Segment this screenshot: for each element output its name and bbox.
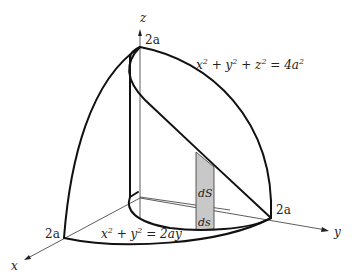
y-axis-label: y xyxy=(333,225,341,239)
dS-label: dS xyxy=(198,187,213,200)
x-axis-label: x xyxy=(11,259,18,273)
y-arrow-icon xyxy=(321,227,329,232)
z-axis-label: z xyxy=(139,11,147,25)
y-axis xyxy=(140,198,326,230)
y-intercept-label: 2a xyxy=(276,203,291,217)
x-intercept-label: 2a xyxy=(45,227,60,241)
diagram-canvas: z x y 2a 2a 2a x2 + y2 + z2 = 4a2 x2 + y… xyxy=(0,0,355,277)
ds-label: ds xyxy=(198,216,211,229)
x-arrow-icon xyxy=(24,255,31,260)
sphere-equation: x2 + y2 + z2 = 4a2 xyxy=(196,57,304,72)
z-intercept-label: 2a xyxy=(145,33,160,47)
sphere-xz-boundary xyxy=(64,47,140,238)
cylinder-base-corner xyxy=(130,192,138,197)
z-arrow-icon xyxy=(138,29,142,36)
base-line-back xyxy=(140,197,230,210)
cylinder-equation: x2 + y2 = 2ay xyxy=(101,226,182,241)
